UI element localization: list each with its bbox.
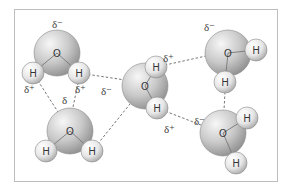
oxygen-label: O [66, 126, 74, 137]
partial-charge-label: δ⁺ [75, 83, 86, 95]
partial-charge-label: δ⁺ [164, 123, 175, 135]
partial-charge-label: δ⁻ [194, 115, 205, 127]
partial-charge-label: δ⁻ [52, 18, 63, 30]
partial-charge-label: δ⁺ [163, 52, 174, 64]
oxygen-label: O [224, 48, 232, 59]
hydrogen-label: H [88, 146, 95, 157]
water-molecule-bottom-left: HHO [35, 108, 103, 162]
partial-charge-label: δ⁻ [204, 21, 215, 33]
oxygen-label: O [141, 81, 149, 92]
hydrogen-bond-line [224, 92, 225, 110]
hydrogen-label: H [232, 158, 239, 169]
hydrogen-label: H [29, 68, 36, 79]
hydrogen-label: H [243, 113, 250, 124]
hydrogen-label: H [152, 62, 159, 73]
hydrogen-label: H [42, 146, 49, 157]
water-molecules: HHOHHOHHOHHOHHO [22, 30, 267, 174]
partial-charge-label: δ⁻ [101, 85, 112, 97]
hydrogen-label: H [252, 45, 259, 56]
hydrogen-label: H [75, 68, 82, 79]
oxygen-label: O [219, 128, 227, 139]
water-molecule-top-left: HHO [22, 30, 90, 84]
partial-charge-label: δ [62, 94, 67, 106]
oxygen-label: O [53, 48, 61, 59]
hydrogen-label: H [221, 77, 228, 88]
water-hydrogen-bond-diagram: HHOHHOHHOHHOHHO δ⁻δ⁺δ⁺δδ⁻δ⁺δ⁻δ⁻δ⁺ [0, 0, 287, 186]
water-molecule-bottom-right: HHO [200, 107, 258, 174]
water-molecule-center: HHO [122, 56, 168, 119]
water-molecule-top-right: HHO [205, 30, 267, 93]
partial-charge-label: δ⁺ [24, 83, 35, 95]
hydrogen-label: H [153, 103, 160, 114]
